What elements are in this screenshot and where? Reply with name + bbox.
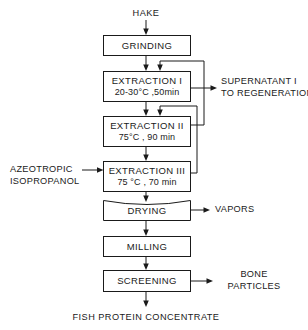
arrowhead-ext1-to-ext2	[143, 110, 149, 117]
process-label-screening: SCREENING	[117, 275, 177, 286]
arrowhead-screening-to-product	[143, 301, 149, 308]
arrowhead-recycle-ext2-to-ext1	[157, 65, 163, 72]
flowchart-page: HAKE GRINDING EXTRACTION I 20-30°C ,50mi…	[0, 0, 308, 330]
process-label-milling: MILLING	[127, 241, 167, 252]
arrowhead-ext1-to-supernatant	[211, 85, 218, 91]
arrowhead-recycle-ext3-to-ext2	[157, 110, 163, 117]
stream-label-isopropanol-line1: AZEOTROPIC	[10, 164, 73, 174]
arrowhead-feed-to-grinding	[143, 29, 149, 36]
process-sublabel-extraction-1: 20-30°C ,50min	[115, 87, 180, 97]
process-label-grinding: GRINDING	[122, 40, 172, 51]
process-sublabel-extraction-2: 75°C , 90 min	[119, 132, 176, 142]
arrowhead-ext2-to-ext3	[143, 155, 149, 162]
stream-label-supernatant-line2: TO REGENERATION	[221, 88, 308, 98]
process-label-drying: DRYING	[128, 205, 167, 216]
process-label-extraction-3: EXTRACTION III	[109, 165, 186, 176]
process-sublabel-extraction-3: 75 °C , 70 min	[117, 177, 176, 187]
stream-label-vapors: VAPORS	[215, 204, 254, 214]
arrowhead-ext3-to-drying	[143, 196, 149, 203]
stream-label-bone-line2: PARTICLES	[228, 281, 281, 291]
stream-label-isopropanol-line2: ISOPROPANOL	[10, 176, 80, 186]
process-flow-diagram: HAKE GRINDING EXTRACTION I 20-30°C ,50mi…	[0, 0, 308, 330]
arrowhead-milling-to-screening	[143, 264, 149, 271]
arrowhead-screening-to-bone	[207, 278, 214, 284]
feed-label: HAKE	[133, 8, 160, 18]
product-label: FISH PROTEIN CONCENTRATE	[73, 312, 220, 322]
arrowhead-drying-to-vapors	[204, 207, 211, 213]
process-label-extraction-2: EXTRACTION II	[110, 120, 184, 131]
arrowhead-drying-to-milling	[143, 230, 149, 237]
process-label-extraction-1: EXTRACTION I	[112, 75, 183, 86]
stream-label-supernatant-line1: SUPERNATANT I	[221, 76, 297, 86]
arrowhead-isopropanol-to-ext3	[97, 167, 104, 173]
arrowhead-grinding-to-ext1	[143, 65, 149, 72]
stream-label-bone-line1: BONE	[240, 269, 267, 279]
